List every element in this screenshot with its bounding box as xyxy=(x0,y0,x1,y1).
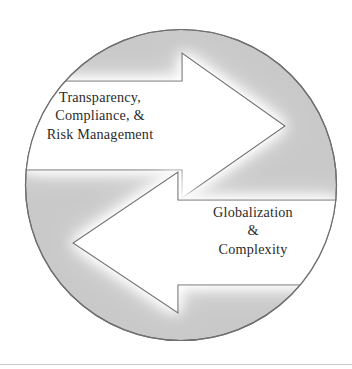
bottom-divider-rule xyxy=(0,364,352,365)
cycle-circle-background xyxy=(26,30,337,341)
cycle-diagram-svg xyxy=(0,0,352,369)
figure-root: Transparency, Compliance, & Risk Managem… xyxy=(0,0,352,369)
